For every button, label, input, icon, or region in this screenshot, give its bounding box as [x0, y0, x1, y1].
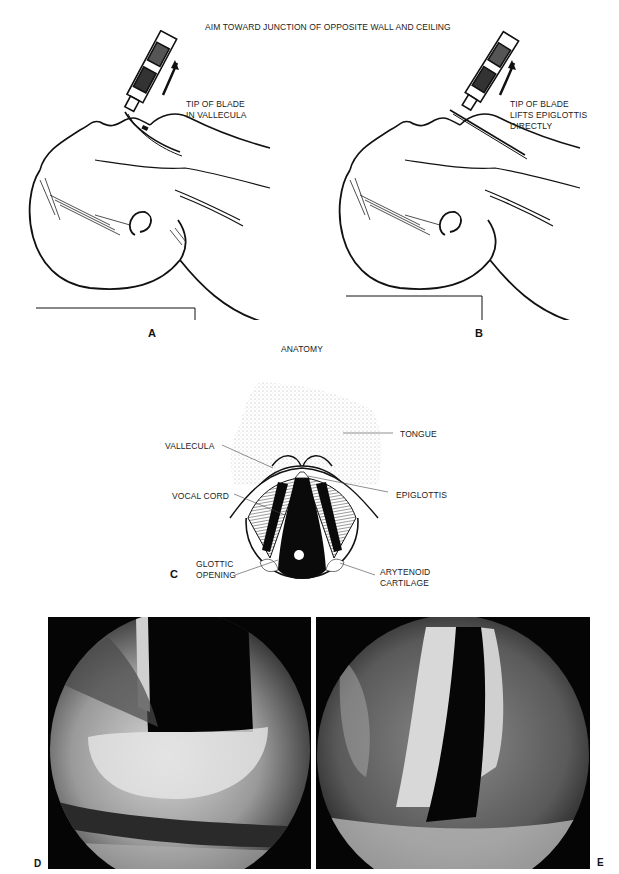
glottic-opening-label-line1: GLOTTIC: [196, 559, 234, 569]
arytenoid-label-line1: ARYTENOID: [380, 567, 430, 577]
laryngoscopy-view-e: [316, 617, 590, 869]
panel-b-caption-line2: LIFTS EPIGLOTTIS: [510, 110, 587, 120]
tongue-label: TONGUE: [400, 429, 437, 439]
panel-b-caption-line1: TIP OF BLADE: [510, 99, 569, 109]
panel-c-anatomy-diagram: [150, 370, 470, 590]
panel-a-illustration: [0, 30, 310, 320]
panel-d-endoscopic-photo: [48, 617, 311, 869]
laryngoscope-patient-drawing-a: [0, 30, 310, 320]
panel-b-caption-line3: DIRECTLY: [510, 121, 552, 131]
panel-b-label: B: [475, 327, 483, 339]
panel-a-caption-line2: IN VALLECULA: [186, 110, 247, 120]
vocal-cord-label: VOCAL CORD: [172, 491, 229, 501]
panel-b-illustration: [310, 30, 619, 320]
panel-a-caption-line1: TIP OF BLADE: [186, 99, 245, 109]
arytenoid-label-line2: CARTILAGE: [380, 578, 429, 588]
panel-e-label: E: [597, 857, 604, 868]
larynx-anatomy-drawing: [150, 370, 470, 590]
panel-d-label: D: [34, 858, 41, 869]
laryngoscope-patient-drawing-b: [310, 30, 619, 320]
panel-e-endoscopic-photo: [316, 617, 590, 869]
panel-c-label: C: [170, 568, 178, 580]
panel-a-label: A: [148, 327, 156, 339]
epiglottis-label: EPIGLOTTIS: [396, 490, 447, 500]
vallecula-label: VALLECULA: [165, 441, 214, 451]
anatomy-caption: ANATOMY: [281, 344, 323, 354]
glottic-opening-label-line2: OPENING: [196, 570, 236, 580]
laryngoscopy-view-d: [48, 617, 311, 869]
